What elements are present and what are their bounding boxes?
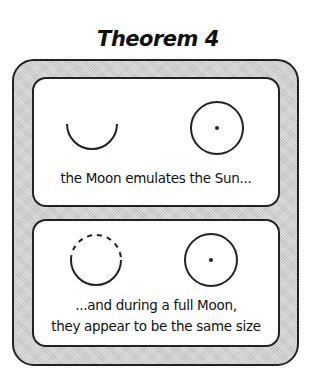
panel-1-caption: the Moon emulates the Sun... [34,168,278,189]
panel-same-size: ...and during a full Moon, they appear t… [32,219,280,347]
sun-circle-icon [191,102,243,154]
half-moon-arc-icon [67,124,117,149]
theorem-frame: the Moon emulates the Sun... ...and duri… [12,59,299,366]
panel-2-caption-line-2: they appear to be the same size [34,316,278,337]
diagram-title: Theorem 4 [0,27,316,51]
sun-circle-icon [185,234,237,286]
panel-2-caption: ...and during a full Moon, they appear t… [34,295,278,337]
panel-moon-emulates-sun: the Moon emulates the Sun... [32,77,280,207]
panel-2-caption-line-1: ...and during a full Moon, [34,295,278,316]
full-moon-circle-icon [71,235,121,285]
